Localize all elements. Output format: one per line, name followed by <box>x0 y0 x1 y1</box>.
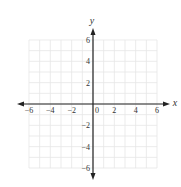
y-tick-label: −6 <box>81 164 90 173</box>
x-tick-label: 6 <box>155 106 159 115</box>
x-tick-label: −4 <box>46 106 55 115</box>
y-axis-label: y <box>89 15 95 26</box>
y-axis-arrow-down-icon <box>91 173 96 180</box>
y-tick-label: −4 <box>81 143 90 152</box>
y-tick-label: 6 <box>86 36 90 45</box>
x-tick-label: −6 <box>25 106 34 115</box>
y-axis-arrow-up-icon <box>91 28 96 35</box>
y-tick-label: 2 <box>86 79 90 88</box>
x-tick-labels: −6−4−20246 <box>25 106 159 115</box>
x-axis-arrow-left-icon <box>17 102 24 107</box>
x-tick-label: −2 <box>67 106 76 115</box>
coordinate-plane: −6−4−20246 642−2−4−6 x y <box>0 0 181 187</box>
x-tick-label: 2 <box>112 106 116 115</box>
y-tick-label: −2 <box>81 121 90 130</box>
x-axis-label: x <box>172 97 178 108</box>
x-tick-label: 0 <box>95 106 99 115</box>
x-tick-label: 4 <box>134 106 138 115</box>
y-tick-label: 4 <box>86 57 90 66</box>
x-axis-arrow-right-icon <box>163 102 170 107</box>
